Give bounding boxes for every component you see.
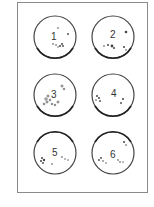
petri-dish-diagram: 1 2 3 4 bbox=[0, 0, 154, 207]
petri-dish-4: 4 bbox=[92, 74, 134, 116]
petri-dish-5: 5 bbox=[34, 132, 76, 174]
petri-dish-3: 3 bbox=[34, 74, 76, 116]
dish-label-5: 5 bbox=[52, 147, 58, 158]
dish-label-3: 3 bbox=[51, 89, 57, 100]
petri-dish-6: 6 bbox=[92, 132, 134, 174]
dish-label-2: 2 bbox=[110, 29, 116, 40]
dish-label-1: 1 bbox=[51, 31, 57, 42]
dish-label-6: 6 bbox=[110, 149, 116, 160]
dish-label-4: 4 bbox=[111, 88, 117, 99]
petri-dish-2: 2 bbox=[92, 16, 134, 58]
petri-dish-1: 1 bbox=[34, 16, 76, 58]
